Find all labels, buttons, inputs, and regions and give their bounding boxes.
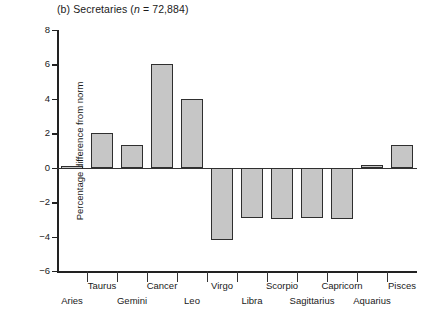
x-label-scorpio: Scorpio [266,280,298,291]
y-tick [52,271,57,272]
bar-gemini [121,145,143,167]
y-tick-label: −4 [39,232,50,242]
bar-capricorn [331,168,353,220]
y-tick-label: 8 [45,25,50,35]
x-label-leo: Leo [184,295,200,306]
chart-title: (b) Secretaries (n = 72,884) [57,3,189,15]
bar-aries [61,166,83,169]
y-tick-label: −6 [39,266,50,276]
x-tick [207,271,208,282]
x-label-pisces: Pisces [388,280,416,291]
x-label-aquarius: Aquarius [353,295,391,306]
chart-title-suffix: = 72,884) [140,3,189,15]
x-tick [237,271,238,282]
bar-series [57,30,417,271]
y-tick-label: 6 [45,60,50,70]
bar-libra [241,168,263,218]
x-tick [117,271,118,282]
bar-taurus [91,133,113,167]
y-tick-label: −2 [39,197,50,207]
x-label-capricorn: Capricorn [321,280,362,291]
x-label-sagittarius: Sagittarius [290,295,335,306]
figure-panel: (b) Secretaries (n = 72,884) Percentage … [0,0,434,317]
bar-scorpio [271,168,293,220]
chart-title-prefix: (b) Secretaries ( [57,3,134,15]
x-label-virgo: Virgo [211,280,233,291]
plot-area: Percentage difference from norm 86420−2−… [57,30,417,271]
x-label-taurus: Taurus [88,280,117,291]
bar-sagittarius [301,168,323,218]
x-label-libra: Libra [241,295,262,306]
y-tick-label: 0 [45,163,50,173]
y-tick-label: 4 [45,94,50,104]
bar-cancer [151,64,173,167]
bar-virgo [211,168,233,240]
bar-pisces [391,145,413,167]
x-label-aries: Aries [61,295,83,306]
bar-leo [181,99,203,168]
y-tick-label: 2 [45,129,50,139]
x-label-cancer: Cancer [147,280,178,291]
bar-aquarius [361,165,383,168]
x-label-gemini: Gemini [117,295,147,306]
